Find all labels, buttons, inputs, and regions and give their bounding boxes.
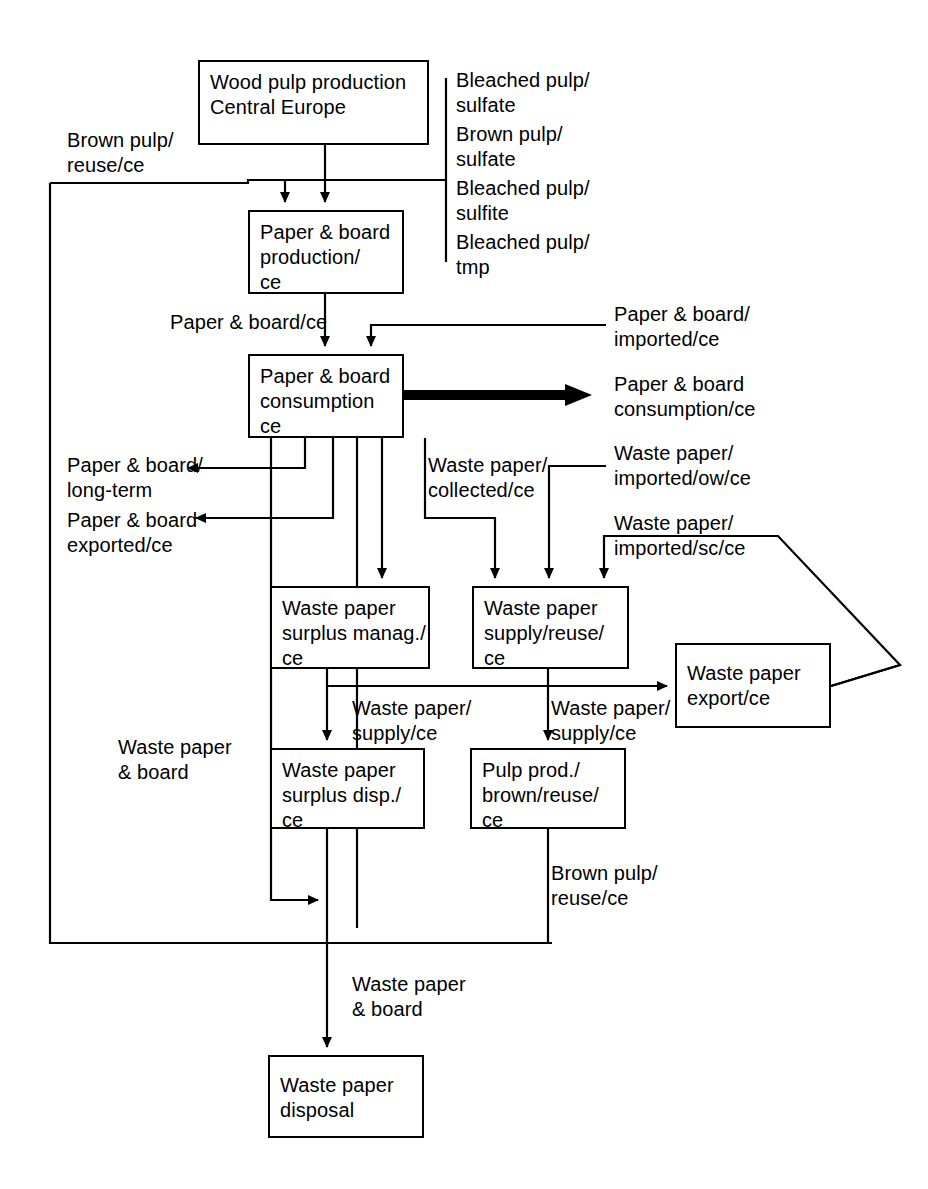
- flow-diagram-canvas: Wood pulp production Central Europe Pape…: [0, 0, 928, 1189]
- label-paper-board-consumption-ce: Paper & board consumption/ce: [614, 372, 755, 422]
- node-waste-paper-surplus-manag[interactable]: Waste paper surplus manag./ ce: [270, 586, 430, 669]
- label-bleached-pulp-sulfite: Bleached pulp/ sulfite: [456, 176, 590, 226]
- thick-output-arrow: [403, 384, 592, 406]
- label-bleached-pulp-tmp: Bleached pulp/ tmp: [456, 230, 590, 280]
- label-paper-board-exported-ce: Paper & board exported/ce: [67, 508, 197, 558]
- node-waste-paper-disposal[interactable]: Waste paper disposal: [268, 1055, 424, 1138]
- node-paper-board-production[interactable]: Paper & board production/ ce: [248, 210, 404, 294]
- node-wood-pulp-production[interactable]: Wood pulp production Central Europe: [198, 60, 429, 145]
- label-brown-pulp-sulfate: Brown pulp/ sulfate: [456, 122, 563, 172]
- label-waste-paper-board-left: Waste paper & board: [118, 735, 232, 785]
- label-waste-paper-supply-ce-left: Waste paper/ supply/ce: [352, 696, 471, 746]
- label-waste-paper-collected-ce: Waste paper/ collected/ce: [428, 453, 547, 503]
- node-waste-paper-surplus-disp[interactable]: Waste paper surplus disp./ ce: [270, 748, 425, 829]
- label-brown-pulp-reuse-ce-2: Brown pulp/ reuse/ce: [551, 861, 658, 911]
- node-pulp-prod-brown-reuse[interactable]: Pulp prod./ brown/reuse/ ce: [470, 748, 626, 829]
- label-waste-paper-board-bottom: Waste paper & board: [352, 972, 466, 1022]
- label-waste-paper-imported-ow-ce: Waste paper/ imported/ow/ce: [614, 441, 751, 491]
- label-brown-pulp-reuse-ce: Brown pulp/ reuse/ce: [67, 128, 174, 178]
- label-bleached-pulp-sulfate: Bleached pulp/ sulfate: [456, 68, 590, 118]
- node-paper-board-consumption[interactable]: Paper & board consumption ce: [248, 354, 404, 438]
- node-waste-paper-supply-reuse[interactable]: Waste paper supply/reuse/ ce: [472, 586, 629, 669]
- label-paper-board-ce: Paper & board/ce: [170, 310, 327, 335]
- node-waste-paper-export[interactable]: Waste paper export/ce: [675, 643, 831, 728]
- label-waste-paper-imported-sc-ce: Waste paper/ imported/sc/ce: [614, 511, 745, 561]
- label-paper-board-imported-ce: Paper & board/ imported/ce: [614, 302, 750, 352]
- label-paper-board-long-term: Paper & board/ long-term: [67, 453, 203, 503]
- label-waste-paper-supply-ce-right: Waste paper/ supply/ce: [551, 696, 670, 746]
